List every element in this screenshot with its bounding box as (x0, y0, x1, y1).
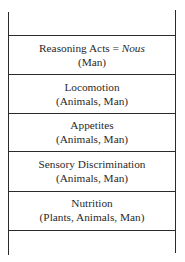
layer-beings: (Animals, Man) (56, 94, 128, 108)
layer-locomotion: Locomotion (Animals, Man) (9, 75, 175, 113)
layer-title: Sensory Discrimination (39, 157, 146, 171)
layer-beings: (Animals, Man) (56, 132, 128, 146)
layer-beings: (Animals, Man) (56, 171, 128, 185)
right-border (175, 10, 176, 253)
layer-title-text: Reasoning Acts = (39, 42, 122, 54)
layer-beings: (Plants, Animals, Man) (40, 210, 145, 224)
layer-sensory-discrimination: Sensory Discrimination (Animals, Man) (9, 152, 175, 190)
layer-title: Locomotion (64, 80, 119, 94)
layer-reasoning: Reasoning Acts = Nous (Man) (9, 36, 175, 74)
layer-appetites: Appetites (Animals, Man) (9, 113, 175, 151)
layer-title: Reasoning Acts = Nous (39, 41, 145, 55)
layer-beings: (Man) (78, 55, 106, 69)
layer-title: Nutrition (71, 196, 112, 210)
layer-title-emphasis: Nous (122, 42, 145, 54)
layer-title: Appetites (70, 118, 113, 132)
layer-nutrition: Nutrition (Plants, Animals, Man) (9, 191, 175, 229)
divider-bottom (8, 230, 176, 231)
